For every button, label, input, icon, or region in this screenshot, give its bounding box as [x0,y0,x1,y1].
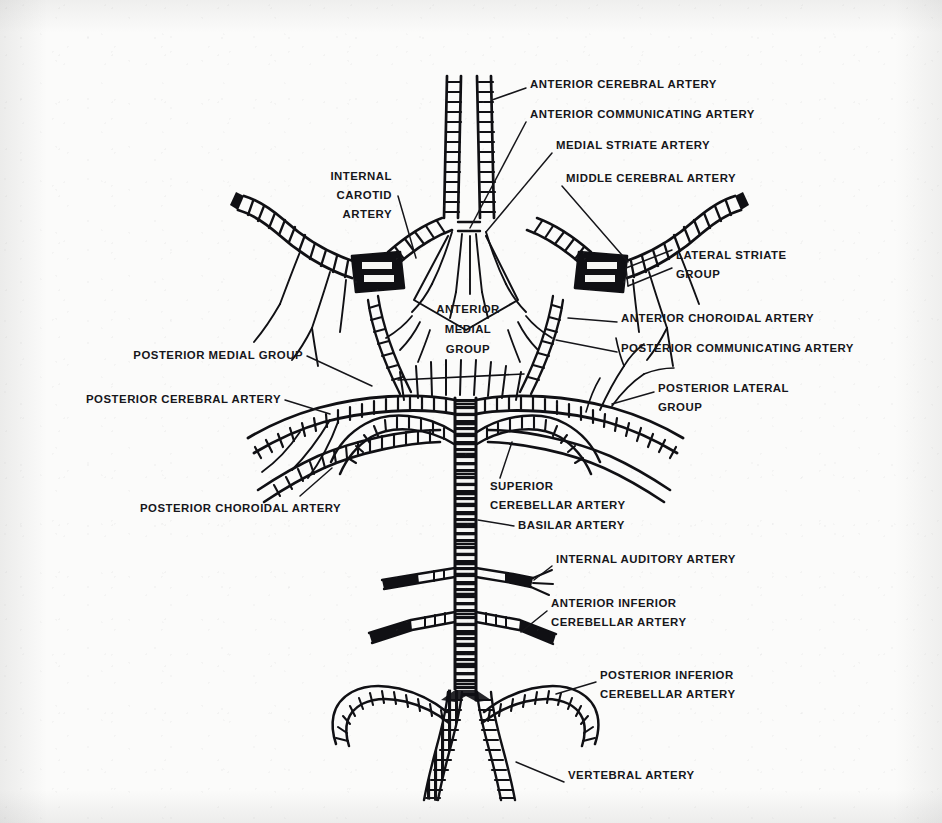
leader-basilar-artery [478,520,514,526]
anterior-cerebral-artery-left [444,76,461,218]
anterior-inferior-cerebellar-artery-left [369,612,455,643]
label-anterior-inferior-cerebellar-artery-line1: ANTERIOR INFERIOR [551,597,677,609]
label-lateral-striate-group-line2: GROUP [676,268,720,280]
internal-auditory-artery-left [382,568,455,589]
leader-anterior-choroidal-artery [568,318,617,322]
label-posterior-lateral-group-line2: GROUP [658,401,702,413]
leader-posterior-communicating-artery [556,340,617,352]
label-vertebral-artery: VERTEBRAL ARTERY [568,769,695,781]
leader-lateral-striate-bracket [626,268,628,286]
figure-page: ANTERIOR CEREBRAL ARTERY ANTERIOR COMMUN… [0,0,942,823]
middle-cerebral-artery-left [230,192,356,366]
label-internal-carotid-artery-line1: INTERNAL [330,170,392,182]
label-anterior-medial-group-line2: MEDIAL [445,323,492,335]
label-superior-cerebellar-artery-line2: CEREBELLAR ARTERY [490,499,626,511]
leader-posterior-inferior-cerebellar-artery [556,682,596,694]
leader-anterior-cerebral-artery [492,88,526,100]
label-posterior-medial-group: POSTERIOR MEDIAL GROUP [133,349,303,361]
posterior-communicating-artery-right [520,296,563,394]
label-anterior-medial-group-line1: ANTERIOR [436,303,499,315]
label-anterior-communicating-artery: ANTERIOR COMMUNICATING ARTERY [530,108,755,120]
leader-middle-cerebral-artery [562,186,628,262]
label-posterior-cerebral-artery: POSTERIOR CEREBRAL ARTERY [86,393,281,405]
label-medial-striate-artery: MEDIAL STRIATE ARTERY [556,139,710,151]
cerebral-arterial-circle-diagram: ANTERIOR CEREBRAL ARTERY ANTERIOR COMMUN… [0,0,942,823]
leader-internal-carotid-artery [398,196,416,258]
label-lateral-striate-group-line1: LATERAL STRIATE [676,249,787,261]
posterior-medial-group-branches [400,360,521,400]
interpeduncular-fossa-outline [414,236,518,330]
label-posterior-inferior-cerebellar-artery-line2: CEREBELLAR ARTERY [600,688,736,700]
label-posterior-inferior-cerebellar-artery-line1: POSTERIOR INFERIOR [600,669,734,681]
leader-internal-auditory-artery [534,566,552,580]
label-middle-cerebral-artery: MIDDLE CEREBRAL ARTERY [566,172,736,184]
internal-carotid-artery-right [575,252,627,292]
label-anterior-cerebral-artery: ANTERIOR CEREBRAL ARTERY [530,78,717,90]
label-superior-cerebellar-artery-line1: SUPERIOR [490,480,554,492]
label-internal-auditory-artery: INTERNAL AUDITORY ARTERY [556,553,736,565]
leader-vertebral-artery [516,762,564,782]
label-posterior-lateral-group-line1: POSTERIOR LATERAL [658,382,789,394]
label-internal-carotid-artery-line2: CAROTID [337,189,392,201]
label-internal-carotid-artery-line3: ARTERY [343,208,392,220]
internal-carotid-artery-left [352,252,404,292]
label-anterior-inferior-cerebellar-artery-line2: CEREBELLAR ARTERY [551,616,687,628]
label-basilar-artery: BASILAR ARTERY [518,519,625,531]
posterior-cerebral-artery-left [248,396,455,502]
internal-auditory-artery-right [476,568,553,595]
label-anterior-medial-group-line3: GROUP [446,343,490,355]
leader-superior-cerebellar-artery [500,442,512,478]
label-posterior-choroidal-artery: POSTERIOR CHOROIDAL ARTERY [140,502,341,514]
anterior-inferior-cerebellar-artery-right [476,612,556,644]
label-posterior-communicating-artery: POSTERIOR COMMUNICATING ARTERY [621,342,854,354]
label-anterior-choroidal-artery: ANTERIOR CHOROIDAL ARTERY [621,312,814,324]
anterior-communicating-artery [458,222,480,231]
posterior-inferior-cerebellar-artery-left [333,686,449,746]
leader-posterior-medial-group [307,356,372,386]
